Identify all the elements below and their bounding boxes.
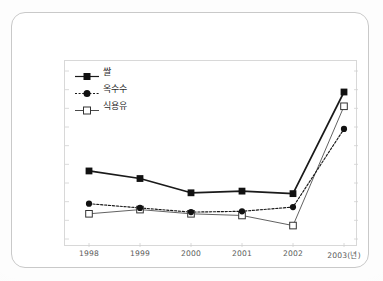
x-tick-label: 1999 [130,249,150,258]
legend-item-cooking-oil: 식용유 [74,100,128,112]
legend-item-rice: 쌀 [74,66,128,78]
x-axis-tick-labels: 199819992000200120022003(년) [64,249,357,263]
legend-item-corn: 옥수수 [74,83,128,95]
legend-label-rice: 쌀 [103,67,111,78]
legend-label-corn: 옥수수 [103,84,128,95]
x-tick-label: 2000 [181,249,201,258]
filled-circle-icon [74,84,100,95]
filled-square-icon [74,67,100,78]
x-tick-label: 2003(년) [327,249,361,260]
chart-legend: 쌀 옥수수 식용유 [74,66,128,112]
x-tick-label: 1998 [79,249,99,258]
legend-label-cooking-oil: 식용유 [103,101,128,112]
x-tick-label: 2001 [232,249,252,258]
hollow-square-icon [74,101,100,112]
scanned-page: 쌀 옥수수 식용유 [0,0,383,281]
chart-card: 쌀 옥수수 식용유 [11,12,369,268]
x-tick-label: 2002 [283,249,303,258]
